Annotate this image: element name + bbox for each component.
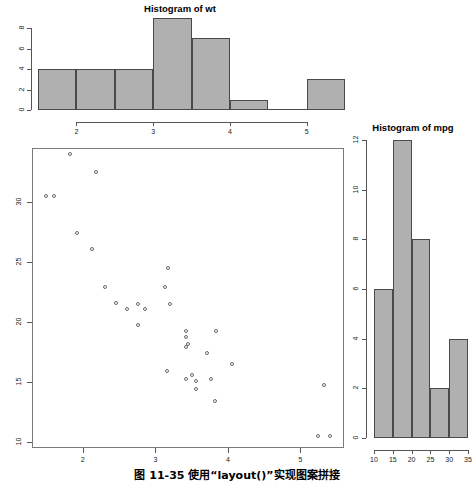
histogram-wt-xtick <box>230 122 231 126</box>
histogram-wt-xtick <box>307 122 308 126</box>
scatter-point <box>209 377 213 381</box>
histogram-mpg-ytick <box>362 239 366 240</box>
histogram-mpg-ytick-label: 2 <box>352 380 359 396</box>
scatter-ytick-label: 30 <box>15 194 22 210</box>
histogram-mpg-xtick <box>449 450 450 454</box>
scatter-ytick-label: 15 <box>15 374 22 390</box>
scatter-ytick <box>27 442 32 443</box>
histogram-mpg-ytick <box>362 190 366 191</box>
histogram-wt-panel: Histogram of wt 024682345 <box>0 0 360 140</box>
histogram-mpg-bar <box>412 239 431 438</box>
histogram-mpg-bar <box>430 388 449 438</box>
scatter-point <box>194 379 198 383</box>
histogram-wt-bar <box>307 79 345 110</box>
histogram-wt-bar <box>115 69 153 110</box>
histogram-wt-bar <box>76 69 114 110</box>
histogram-wt-xtick-label: 4 <box>222 128 238 135</box>
histogram-wt-bar <box>268 109 306 110</box>
histogram-wt-bar <box>153 18 191 110</box>
histogram-wt-xtick-label: 2 <box>68 128 84 135</box>
scatter-ytick <box>27 322 32 323</box>
scatter-point <box>214 329 218 333</box>
histogram-wt-bar <box>38 69 76 110</box>
scatter-point <box>184 377 188 381</box>
histogram-wt-xtick <box>153 122 154 126</box>
scatter-xtick <box>155 448 156 453</box>
scatter-ytick <box>27 382 32 383</box>
histogram-wt-ytick-label: 0 <box>18 103 25 117</box>
histogram-mpg-ytick <box>362 438 366 439</box>
histogram-mpg-xtick <box>393 450 394 454</box>
scatter-point <box>125 307 129 311</box>
histogram-mpg-ytick <box>362 140 366 141</box>
histogram-mpg-bar <box>374 289 393 438</box>
histogram-mpg-xtick <box>468 450 469 454</box>
scatter-xtick <box>83 448 84 453</box>
scatter-ytick <box>27 262 32 263</box>
histogram-mpg-xtick <box>374 450 375 454</box>
histogram-mpg-ytick <box>362 289 366 290</box>
histogram-mpg-ytick-label: 6 <box>352 281 359 297</box>
histogram-wt-yaxis-line <box>31 28 32 110</box>
histogram-mpg-xtick-label: 20 <box>403 456 421 463</box>
histogram-mpg-ytick-label: 12 <box>352 132 359 148</box>
histogram-mpg-ytick <box>362 388 366 389</box>
histogram-wt-ytick <box>27 69 31 70</box>
scatter-xtick <box>228 448 229 453</box>
scatter-ytick-label: 25 <box>15 254 22 270</box>
histogram-mpg-panel: Histogram of mpg 024681012101520253035 <box>352 118 474 466</box>
histogram-mpg-ytick <box>362 339 366 340</box>
scatter-point <box>90 247 94 251</box>
histogram-wt-xtick-label: 3 <box>145 128 161 135</box>
scatter-ytick <box>27 202 32 203</box>
scatter-xtick-label: 2 <box>75 456 91 463</box>
histogram-wt-ytick-label: 6 <box>18 41 25 55</box>
scatter-plot-panel: 10152025302345 <box>0 140 360 466</box>
figure-caption: 图 11-35 使用“layout()”实现图案拼接 <box>0 466 474 482</box>
scatter-point <box>114 301 118 305</box>
scatter-xtick <box>300 448 301 453</box>
histogram-wt-bar <box>192 38 230 110</box>
scatter-point <box>184 329 188 333</box>
histogram-mpg-ytick-label: 10 <box>352 181 359 197</box>
scatter-point <box>68 152 72 156</box>
histogram-mpg-xtick-label: 30 <box>440 456 458 463</box>
histogram-mpg-bar <box>393 140 412 438</box>
histogram-mpg-title: Histogram of mpg <box>352 122 474 133</box>
scatter-plot-frame <box>32 148 344 448</box>
histogram-wt-ytick-label: 2 <box>18 82 25 96</box>
histogram-wt-xtick <box>76 122 77 126</box>
histogram-mpg-yaxis-line <box>366 140 367 438</box>
histogram-mpg-xtick-label: 10 <box>365 456 383 463</box>
histogram-wt-ytick <box>27 90 31 91</box>
histogram-wt-ytick-label: 4 <box>18 62 25 76</box>
scatter-xtick-label: 4 <box>220 456 236 463</box>
scatter-point <box>184 335 188 339</box>
histogram-wt-bar <box>230 100 268 110</box>
histogram-mpg-xaxis-line <box>374 450 468 451</box>
scatter-xtick-label: 5 <box>292 456 308 463</box>
histogram-mpg-xtick <box>412 450 413 454</box>
histogram-wt-ytick-label: 8 <box>18 21 25 35</box>
histogram-mpg-bar <box>449 339 468 438</box>
histogram-mpg-xtick <box>430 450 431 454</box>
histogram-mpg-ytick-label: 0 <box>352 430 359 446</box>
histogram-wt-ytick <box>27 49 31 50</box>
histogram-mpg-ytick-label: 8 <box>352 231 359 247</box>
histogram-wt-ytick <box>27 28 31 29</box>
scatter-point <box>316 434 320 438</box>
histogram-wt-xtick-label: 5 <box>299 128 315 135</box>
scatter-ytick-label: 10 <box>15 434 22 450</box>
scatter-xtick-label: 3 <box>147 456 163 463</box>
histogram-mpg-xtick-label: 25 <box>421 456 439 463</box>
histogram-wt-xaxis-line <box>76 122 306 123</box>
histogram-wt-title: Histogram of wt <box>0 3 360 14</box>
histogram-mpg-xtick-label: 35 <box>459 456 474 463</box>
histogram-wt-ytick <box>27 110 31 111</box>
scatter-point <box>136 323 140 327</box>
histogram-mpg-ytick-label: 4 <box>352 330 359 346</box>
scatter-ytick-label: 20 <box>15 314 22 330</box>
histogram-mpg-xtick-label: 15 <box>384 456 402 463</box>
